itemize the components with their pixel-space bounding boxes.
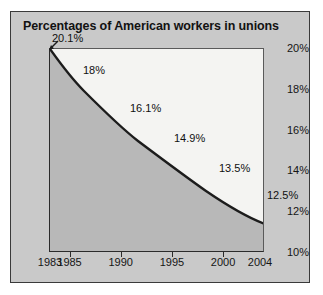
plot-area xyxy=(49,48,264,252)
x-tick-label-1985: 1985 xyxy=(57,256,81,268)
data-label-2000: 13.5% xyxy=(219,162,250,174)
chart-screenshot: Percentages of American workers in union… xyxy=(0,0,323,295)
data-label-1995: 14.9% xyxy=(174,132,205,144)
data-label-1983: 20.1% xyxy=(52,32,83,44)
area-fill xyxy=(50,49,264,252)
x-tick-label-1990: 1990 xyxy=(108,256,132,268)
y-tick-label-12: 12% xyxy=(275,205,309,217)
data-label-2004: 12.5% xyxy=(267,189,298,201)
data-label-1985: 18% xyxy=(83,64,105,76)
y-tick-label-20: 20% xyxy=(275,42,309,54)
x-tick-label-2000: 2000 xyxy=(211,256,235,268)
area-chart-svg xyxy=(50,49,264,252)
x-tick-label-2004: 2004 xyxy=(248,256,272,268)
y-tick-label-10: 10% xyxy=(275,246,309,258)
y-tick-label-16: 16% xyxy=(275,124,309,136)
data-label-1990: 16.1% xyxy=(130,102,161,114)
y-tick-label-18: 18% xyxy=(275,83,309,95)
x-tick-label-1995: 1995 xyxy=(160,256,184,268)
chart-title: Percentages of American workers in union… xyxy=(23,19,279,33)
chart-panel: Percentages of American workers in union… xyxy=(10,11,310,283)
y-tick-label-14: 14% xyxy=(275,164,309,176)
